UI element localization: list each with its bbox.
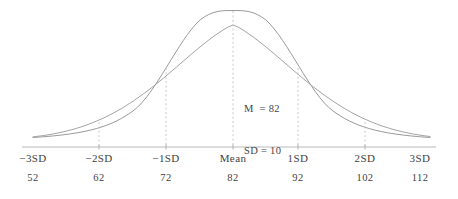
bell-curve-path xyxy=(33,25,430,137)
bell-curve-smooth xyxy=(33,11,430,138)
sd-dashed-lines xyxy=(99,11,365,146)
tick-sd-label: 3SD xyxy=(380,151,458,165)
tick-group-plus3sd: 3SD 112 xyxy=(380,151,458,185)
normal-distribution-figure: M = 82 SD = 10 −3SD 52 −2SD 62 −1SD 72 M… xyxy=(0,0,458,199)
axis-label-row: −3SD 52 −2SD 62 −1SD 72 Mean 82 1SD 92 2… xyxy=(0,151,458,199)
mean-annotation-text: M = 82 xyxy=(244,102,281,116)
tick-value-label: 112 xyxy=(380,171,458,185)
